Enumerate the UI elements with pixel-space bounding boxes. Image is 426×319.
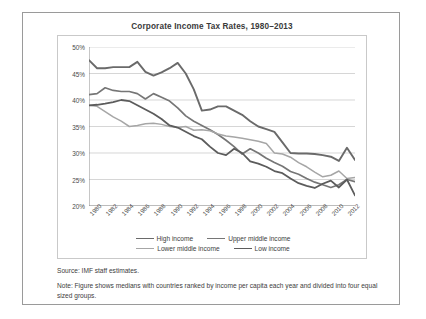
legend-item: Low income [234,245,290,252]
legend-line-swatch [136,238,154,239]
figure-container: Corporate Income Tax Rates, 1980–2013 20… [22,12,400,305]
chart-legend: High incomeUpper middle income Lower mid… [58,232,368,252]
y-tick-label: 35% [72,123,85,130]
legend-line-swatch [207,238,225,239]
y-tick-label: 25% [72,176,85,183]
figure-page: Corporate Income Tax Rates, 1980–2013 20… [0,0,426,319]
legend-line-swatch [136,248,154,249]
y-tick-label: 40% [72,97,85,104]
legend-label: High income [157,235,194,242]
plot-area [89,47,355,206]
legend-row-bottom: Lower middle incomeLow income [58,245,368,252]
legend-label: Lower middle income [157,245,219,252]
y-tick-label: 50% [72,44,85,51]
chart-frame: 20%25%30%35%40%45%50% 198019821984198619… [57,35,367,259]
legend-line-swatch [234,248,252,249]
legend-label: Upper middle income [228,235,290,242]
y-axis-labels: 20%25%30%35%40%45%50% [58,36,88,218]
y-tick-label: 45% [72,70,85,77]
figure-title: Corporate Income Tax Rates, 1980–2013 [23,22,401,31]
y-tick-label: 20% [72,203,85,210]
legend-row-top: High incomeUpper middle income [58,235,368,242]
note-text: Note: Figure shows medians with countrie… [57,281,387,301]
legend-label: Low income [255,245,290,252]
legend-item: High income [136,235,194,242]
y-tick-label: 30% [72,150,85,157]
figure-footnotes: Source: IMF staff estimates. Note: Figur… [57,267,387,301]
source-text: Source: IMF staff estimates. [57,267,387,274]
legend-item: Lower middle income [136,245,219,252]
chart-lines [89,47,355,206]
legend-item: Upper middle income [207,235,290,242]
